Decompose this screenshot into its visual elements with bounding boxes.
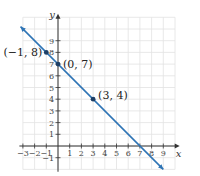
x-axis-label: x	[176, 148, 182, 159]
x-tick-label: 1	[67, 149, 72, 158]
y-tick-label: 6	[49, 72, 54, 81]
y-tick-label: 1	[49, 130, 54, 139]
point-label: (0, 7)	[63, 58, 93, 71]
x-tick-label: 4	[102, 149, 107, 158]
y-tick-label: 7	[49, 60, 54, 69]
y-tick-label: 5	[49, 84, 54, 93]
point-label: (−1, 8)	[4, 46, 43, 59]
x-tick-label: 7	[137, 149, 142, 158]
y-axis-label: y	[48, 9, 55, 20]
x-tick-label: 6	[126, 149, 131, 158]
y-tick-label: 4	[49, 95, 54, 104]
data-point	[44, 50, 49, 55]
point-label: (3, 4)	[98, 89, 128, 102]
x-tick-label: 3	[91, 149, 96, 158]
y-tick-label: −1	[42, 154, 54, 163]
y-tick-label: 9	[49, 37, 54, 46]
y-axis-arrow-icon	[56, 14, 61, 19]
x-tick-label: −2	[29, 149, 41, 158]
x-tick-label: 2	[79, 149, 84, 158]
x-tick-label: 9	[161, 149, 166, 158]
y-tick-label: 2	[49, 119, 54, 128]
y-tick-label: 3	[49, 107, 54, 116]
data-point	[91, 97, 96, 102]
x-tick-label: −3	[17, 149, 29, 158]
x-tick-label: 5	[114, 149, 119, 158]
line-graph: −3−2−1123456789−1123456789xy(−1, 8)(0, 7…	[0, 0, 200, 176]
data-point	[56, 62, 61, 67]
